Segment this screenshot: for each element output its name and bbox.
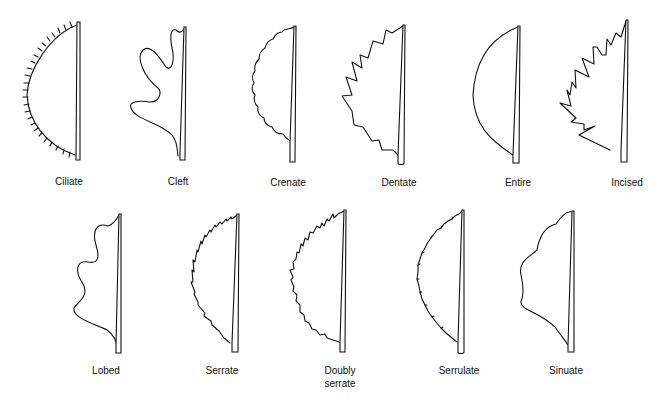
leaf-lobed: [74, 214, 121, 353]
leaf-entire: [473, 26, 520, 163]
leaf-sinuate: [520, 211, 574, 352]
label-cleft: Cleft: [138, 175, 218, 188]
leaf-incised: [560, 20, 628, 162]
leaf-cleft: [130, 27, 186, 160]
label-incised: Incised: [587, 176, 664, 189]
leaf-margin-diagram: [0, 0, 664, 399]
label-serrate: Serrate: [182, 364, 262, 377]
label-entire: Entire: [478, 176, 558, 189]
label-serrulate: Serrulate: [419, 364, 499, 377]
label-dentate: Dentate: [359, 176, 439, 189]
label-sinuate: Sinuate: [526, 364, 606, 377]
leaf-ciliate: [23, 22, 80, 160]
label-doubly-serrate-line2: serrate: [300, 377, 380, 390]
serrulate-teeth: [417, 217, 453, 328]
leaf-doubly-serrate: [290, 210, 346, 352]
leaf-serrulate: [417, 210, 464, 354]
label-ciliate: Ciliate: [29, 175, 109, 188]
leaf-crenate: [252, 26, 296, 162]
label-lobed: Lobed: [66, 364, 146, 377]
label-doubly-serrate-line1: Doubly: [300, 364, 380, 377]
leaf-serrate: [191, 214, 239, 352]
cilia-hairs: [23, 22, 72, 157]
label-doubly-serrate: Doubly serrate: [300, 364, 380, 390]
leaf-dentate: [342, 25, 405, 165]
label-crenate: Crenate: [248, 176, 328, 189]
